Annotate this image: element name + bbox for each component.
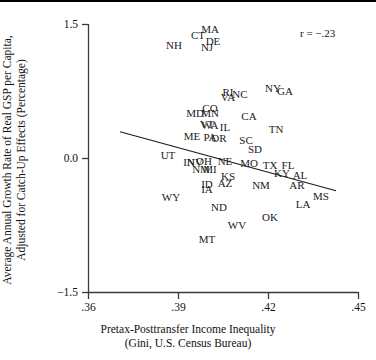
state-label-co: CO — [202, 103, 217, 114]
correlation-annotation: r = −.23 — [300, 27, 335, 39]
state-label-ms: MS — [313, 190, 329, 201]
x-axis-title-line2: (Gini, U.S. Census Bureau) — [0, 336, 376, 350]
state-label-nv: NV — [187, 156, 203, 167]
state-label-wy: WY — [162, 192, 180, 203]
scatter-plot-figure: MACTDENHNJNYGARINCVACOMNMDCAVTWAILTNMEPA… — [0, 0, 376, 360]
state-label-sc: SC — [239, 135, 252, 146]
x-tick-label-3: .45 — [351, 302, 365, 314]
state-label-wv: WV — [228, 220, 246, 231]
state-label-ks: KS — [221, 170, 235, 181]
state-label-tx: TX — [263, 160, 278, 171]
x-tick-label-2: .42 — [261, 302, 275, 314]
y-axis-title-line2: Adjusted for Catch-Up Effects (Percentag… — [14, 10, 28, 310]
figure-top-rule — [0, 0, 376, 2]
state-label-de: DE — [206, 36, 221, 47]
state-label-ne: NE — [218, 155, 233, 166]
state-label-ri: RI — [223, 86, 234, 97]
y-tick-label-0: −1.5 — [57, 287, 78, 299]
y-axis-title-line1: Average Annual Growth Rate of Real GSP p… — [0, 10, 14, 310]
state-label-md: MD — [186, 108, 204, 119]
state-label-mt: MT — [199, 233, 216, 244]
state-label-nh: NH — [166, 39, 182, 50]
data-point-labels: MACTDENHNJNYGARINCVACOMNMDCAVTWAILTNMEPA… — [0, 0, 376, 360]
state-label-mo: MO — [240, 158, 258, 169]
state-label-sd: SD — [248, 144, 262, 155]
state-label-wa: WA — [201, 120, 218, 131]
y-axis-title: Average Annual Growth Rate of Real GSP p… — [0, 10, 28, 310]
state-label-nd: ND — [211, 202, 227, 213]
x-axis-title-line1: Pretax-Posttransfer Income Inequality — [0, 322, 376, 336]
state-label-la: LA — [296, 198, 311, 209]
plot-axes-and-trendline — [0, 0, 376, 360]
x-tick-label-0: .36 — [81, 302, 95, 314]
state-label-az: AZ — [218, 178, 233, 189]
state-label-ny: NY — [265, 82, 281, 93]
state-label-va: VA — [221, 92, 235, 103]
state-label-or: OR — [211, 133, 226, 144]
state-label-nm: NM — [192, 163, 210, 174]
state-label-fl: FL — [282, 160, 295, 171]
state-label-ok: OK — [262, 212, 278, 223]
state-label-ia: IA — [201, 184, 213, 195]
state-label-tn: TN — [269, 123, 284, 134]
state-label-ma: MA — [201, 23, 219, 34]
state-label-ky: KY — [274, 168, 290, 179]
state-label-oh: OH — [196, 155, 212, 166]
state-label-ca: CA — [241, 111, 256, 122]
state-label-ga: GA — [277, 86, 293, 97]
y-tick-label-1: 0.0 — [64, 153, 78, 165]
state-label-mn: MN — [201, 107, 219, 118]
state-label-ut: UT — [161, 150, 176, 161]
state-label-me: ME — [184, 130, 201, 141]
y-tick-label-2: 1.5 — [64, 19, 78, 31]
state-label-al: AL — [293, 170, 308, 181]
state-label-in: IN — [183, 156, 195, 167]
state-label-nj: NJ — [201, 42, 213, 53]
state-label-vt: VT — [200, 119, 215, 130]
state-label-nm2: NM — [252, 179, 270, 190]
state-label-nc: NC — [232, 88, 247, 99]
axis-tick-labels: −1.50.01.5.36.39.42.45 — [0, 0, 376, 360]
state-label-mi: MI — [203, 163, 216, 174]
x-axis-title: Pretax-Posttransfer Income Inequality (G… — [0, 322, 376, 350]
state-label-il: IL — [220, 121, 230, 132]
x-tick-label-1: .39 — [171, 302, 185, 314]
state-label-ar: AR — [289, 179, 304, 190]
state-label-id: ID — [201, 179, 213, 190]
state-label-pa: PA — [203, 131, 216, 142]
state-label-ct: CT — [191, 29, 205, 40]
